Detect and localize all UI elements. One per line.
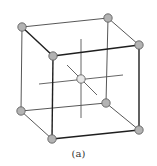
figure-caption: (a)	[0, 148, 157, 159]
edge-bottom-left-depth	[21, 111, 52, 139]
atom-back-bottom-left	[17, 107, 25, 115]
edge-back-top	[22, 18, 108, 27]
edge-top-right-depth	[108, 18, 139, 45]
edge-back-bottom	[21, 103, 106, 111]
atom-back-bottom-right	[102, 99, 110, 107]
atom-front-bottom-left	[48, 135, 56, 143]
atom-front-bottom-right	[135, 126, 143, 134]
edge-top-left-depth	[22, 27, 53, 56]
edge-bottom-right-depth	[106, 103, 139, 130]
atom-back-top-right	[104, 14, 112, 22]
edge-front-top	[53, 45, 139, 56]
bcc-unit-cell-diagram	[0, 0, 157, 166]
atom-back-top-left	[18, 23, 26, 31]
edge-back-right-vertical	[106, 18, 108, 103]
atom-front-top-right	[135, 41, 143, 49]
edge-front-bottom	[52, 130, 139, 139]
edge-front-left-vertical	[52, 56, 53, 139]
edge-back-left-vertical	[21, 27, 22, 111]
atom-front-top-left	[49, 52, 57, 60]
atom-body-center	[77, 75, 85, 83]
